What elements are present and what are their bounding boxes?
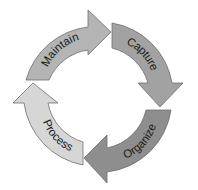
arrow-organize: Organize bbox=[84, 110, 171, 183]
arrow-maintain: Maintain bbox=[26, 10, 111, 80]
arrow-capture: Capture bbox=[112, 23, 183, 107]
arrow-process: Process bbox=[13, 83, 83, 165]
arrow-shape-organize bbox=[84, 110, 171, 183]
cycle-diagram: Maintain Capture Organize Process bbox=[0, 0, 198, 190]
